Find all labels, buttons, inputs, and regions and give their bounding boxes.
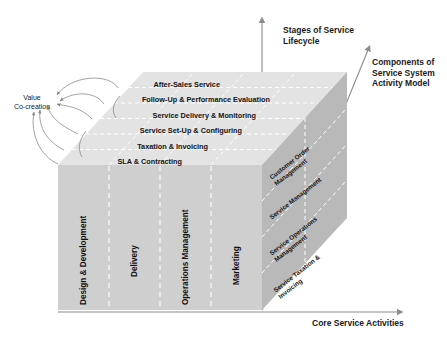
diagram-canvas: Stages of Service Lifecycle Components o…: [0, 0, 447, 345]
stage-row-follow-up: Follow-Up & Performance Evaluation: [40, 95, 270, 104]
depth-axis-label: Components of Service System Activity Mo…: [372, 57, 435, 89]
cube-diagram-svg: [0, 0, 447, 345]
stage-row-after-sales: After-Sales Service: [70, 80, 220, 89]
horizontal-axis-label: Core Service Activities: [312, 318, 404, 329]
front-column-design-development: Design & Development: [79, 216, 88, 305]
stage-row-taxation: Taxation & Invoicing: [20, 142, 208, 151]
front-column-delivery: Delivery: [130, 245, 139, 277]
stage-row-service-delivery: Service Delivery & Monitoring: [40, 111, 256, 120]
front-column-marketing: Marketing: [232, 246, 241, 285]
vertical-axis-label: Stages of Service Lifecycle: [283, 25, 354, 46]
stage-row-service-setup: Service Set-Up & Configuring: [30, 126, 242, 135]
stage-row-sla: SLA & Contracting: [10, 157, 182, 166]
front-column-operations-management: Operations Management: [181, 209, 190, 305]
front-face: [58, 165, 262, 310]
